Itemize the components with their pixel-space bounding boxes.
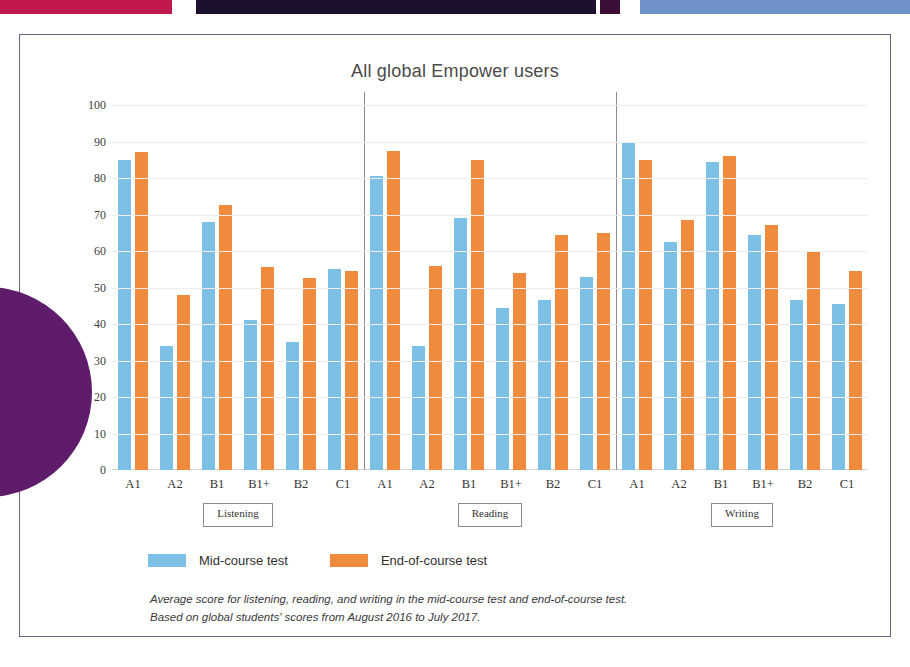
gridline xyxy=(112,397,868,398)
bar-mid-course xyxy=(118,160,131,470)
skill-tag-row: ListeningReadingWriting xyxy=(112,503,868,527)
bar-end-of-course xyxy=(471,160,484,470)
plot-area: A1A2B1B1+B2C1A1A2B1B1+B2C1A1A2B1B1+B2C1 xyxy=(112,105,868,470)
x-axis-tick-label: B2 xyxy=(784,477,826,492)
bar-end-of-course xyxy=(177,295,190,470)
bar-mid-course xyxy=(748,235,761,470)
bar-mid-course xyxy=(580,277,593,470)
gridline xyxy=(112,288,868,289)
y-axis-tick-label: 80 xyxy=(60,171,106,186)
y-axis-tick-label: 100 xyxy=(60,98,106,113)
y-axis-tick-label: 0 xyxy=(60,463,106,478)
bar-mid-course xyxy=(790,300,803,470)
top-bar-plum xyxy=(600,0,620,14)
decorative-top-bars xyxy=(0,0,910,14)
bar-mid-course xyxy=(160,346,173,470)
bar-mid-course xyxy=(454,218,467,470)
bar-mid-course xyxy=(622,142,635,471)
legend-label: Mid-course test xyxy=(199,553,288,568)
bar-end-of-course xyxy=(555,235,568,470)
plot-wrapper: 0102030405060708090100 A1A2B1B1+B2C1A1A2… xyxy=(20,105,890,525)
x-axis-tick-label: A1 xyxy=(364,477,406,492)
bar-end-of-course xyxy=(261,267,274,470)
x-axis-tick-label: A2 xyxy=(154,477,196,492)
bar-end-of-course xyxy=(639,160,652,470)
legend-swatch xyxy=(330,554,368,567)
legend-swatch xyxy=(148,554,186,567)
chart-card: All global Empower users 010203040506070… xyxy=(19,34,891,637)
x-axis-tick-label: C1 xyxy=(826,477,868,492)
top-bar-crimson xyxy=(0,0,172,14)
gridline xyxy=(112,324,868,325)
skill-tag-reading: Reading xyxy=(458,503,523,527)
gridline xyxy=(112,178,868,179)
bar-end-of-course xyxy=(849,271,862,470)
skill-tag-listening: Listening xyxy=(203,503,273,527)
top-bar-navy xyxy=(196,0,596,14)
x-axis-tick-label: A2 xyxy=(658,477,700,492)
x-axis-tick-label: C1 xyxy=(322,477,364,492)
y-axis-tick-label: 60 xyxy=(60,244,106,259)
chart-caption: Average score for listening, reading, an… xyxy=(150,591,790,627)
x-axis-tick-label: B1+ xyxy=(490,477,532,492)
bar-end-of-course xyxy=(303,278,316,470)
x-axis-tick-label: B1+ xyxy=(238,477,280,492)
x-axis-tick-label: A1 xyxy=(112,477,154,492)
x-axis-tick-label: B2 xyxy=(280,477,322,492)
x-axis-tick-label: C1 xyxy=(574,477,616,492)
x-axis-tick-label: B1 xyxy=(196,477,238,492)
skill-tag-cell: Writing xyxy=(616,503,868,527)
bar-mid-course xyxy=(832,304,845,470)
bar-mid-course xyxy=(412,346,425,470)
caption-line-2: Based on global students' scores from Au… xyxy=(150,609,790,627)
gridline xyxy=(112,215,868,216)
gridline xyxy=(112,434,868,435)
gridline xyxy=(112,361,868,362)
legend-item[interactable]: End-of-course test xyxy=(330,553,487,568)
bar-mid-course xyxy=(538,300,551,470)
legend-label: End-of-course test xyxy=(381,553,487,568)
skill-tag-cell: Listening xyxy=(112,503,364,527)
gridline xyxy=(112,142,868,143)
legend-item[interactable]: Mid-course test xyxy=(148,553,288,568)
gridline xyxy=(112,251,868,252)
bar-end-of-course xyxy=(681,220,694,470)
y-axis-tick-label: 50 xyxy=(60,280,106,295)
bar-mid-course xyxy=(706,162,719,470)
skill-tag-cell: Reading xyxy=(364,503,616,527)
bar-end-of-course xyxy=(345,271,358,470)
x-axis-tick-label: B1+ xyxy=(742,477,784,492)
caption-line-1: Average score for listening, reading, an… xyxy=(150,591,790,609)
x-axis-tick-label: B1 xyxy=(448,477,490,492)
bar-end-of-course xyxy=(387,151,400,470)
bar-end-of-course xyxy=(135,152,148,470)
y-axis-tick-label: 70 xyxy=(60,207,106,222)
bar-end-of-course xyxy=(219,205,232,470)
bar-end-of-course xyxy=(429,266,442,470)
gridline xyxy=(112,105,868,106)
bar-mid-course xyxy=(664,242,677,470)
y-axis-tick-label: 90 xyxy=(60,134,106,149)
x-axis-tick-label: B1 xyxy=(700,477,742,492)
bar-end-of-course xyxy=(513,273,526,470)
skill-tag-writing: Writing xyxy=(711,503,773,527)
bar-end-of-course xyxy=(723,156,736,470)
bar-mid-course xyxy=(328,269,341,470)
top-bar-blue xyxy=(640,0,910,14)
chart-legend: Mid-course testEnd-of-course test xyxy=(148,553,487,568)
x-axis-tick-label: A2 xyxy=(406,477,448,492)
x-axis-tick-label: B2 xyxy=(532,477,574,492)
x-axis-tick-label: A1 xyxy=(616,477,658,492)
bar-mid-course xyxy=(244,320,257,470)
bar-mid-course xyxy=(496,308,509,470)
chart-title: All global Empower users xyxy=(20,61,890,82)
